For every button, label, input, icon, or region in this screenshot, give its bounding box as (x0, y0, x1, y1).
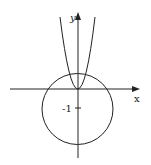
tick-label-minus-1: -1 (62, 104, 72, 114)
x-axis-arrow-icon (132, 86, 140, 92)
coordinate-diagram (0, 0, 151, 165)
x-axis-label: x (134, 94, 140, 104)
y-axis-label: y (70, 13, 76, 23)
